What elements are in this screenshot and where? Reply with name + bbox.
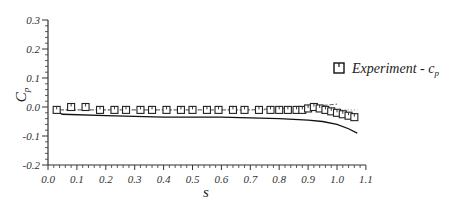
experiment-marker-square-icon — [189, 106, 196, 113]
y-tick-label: 0.2 — [26, 43, 40, 55]
series-layer — [53, 104, 358, 134]
experiment-marker-square-icon — [123, 106, 130, 113]
x-tick-label: 1.0 — [330, 173, 344, 185]
experiment-marker-square-icon — [241, 106, 248, 113]
x-axis-title: s — [203, 184, 209, 200]
experiment-marker-square-icon — [111, 106, 118, 113]
experiment-marker-square-icon — [163, 106, 170, 113]
experiment-marker-square-icon — [97, 106, 104, 113]
experiment-marker-square-icon — [255, 106, 262, 113]
experiment-marker-square-icon — [351, 114, 358, 121]
experiment-marker-square-icon — [215, 106, 222, 113]
y-tick-label: -0.2 — [23, 159, 41, 171]
x-tick-label: 0.2 — [99, 173, 113, 185]
experiment-marker-square-icon — [82, 104, 89, 111]
experiment-marker-square-icon — [149, 106, 156, 113]
x-tick-label: 0.7 — [243, 173, 257, 185]
y-tick-label: 0.3 — [26, 14, 40, 26]
experiment-marker-square-icon — [267, 106, 274, 113]
experiment-marker-square-icon — [276, 106, 283, 113]
legend-label: Experiment - cp — [351, 61, 439, 78]
x-tick-label: 1.1 — [359, 173, 373, 185]
x-tick-label: 0.5 — [186, 173, 200, 185]
experiment-marker-square-icon — [53, 106, 60, 113]
y-tick-label: 0.1 — [26, 72, 40, 84]
x-tick-label: 0.9 — [301, 173, 315, 185]
experiment-marker-square-icon — [137, 106, 144, 113]
x-tick-label: 0.4 — [157, 173, 171, 185]
experiment-marker-square-icon — [229, 106, 236, 113]
experiment-marker-square-icon — [284, 106, 291, 113]
x-tick-label: 0.3 — [128, 173, 142, 185]
x-tick-label: 0.6 — [215, 173, 229, 185]
y-axis-title: Cp — [13, 87, 31, 102]
experiment-marker-square-icon — [177, 106, 184, 113]
x-tick-label: 0.8 — [272, 173, 286, 185]
cp-chart: 0.00.10.20.30.40.50.60.70.80.91.01.10.30… — [0, 0, 459, 213]
legend: Experiment - cp — [334, 61, 439, 78]
experiment-marker-square-icon — [203, 106, 210, 113]
x-tick-label: 0.0 — [41, 173, 55, 185]
x-tick-label: 0.1 — [70, 173, 84, 185]
axes: 0.00.10.20.30.40.50.60.70.80.91.01.10.30… — [23, 14, 373, 185]
legend-marker-square-icon — [334, 63, 344, 73]
experiment-marker-square-icon — [68, 104, 75, 111]
y-tick-label: -0.1 — [23, 130, 40, 142]
